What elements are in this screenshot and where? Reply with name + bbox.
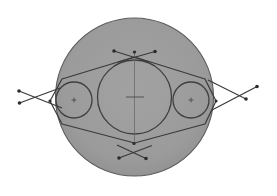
node-point [112, 49, 116, 53]
node-point [132, 142, 135, 145]
node-point [255, 85, 259, 89]
node-point [17, 89, 21, 93]
drawing-svg [0, 0, 277, 196]
node-point [117, 156, 121, 160]
node-point [144, 157, 148, 161]
node-point [18, 101, 22, 105]
node-point [153, 50, 157, 54]
drawing-canvas [0, 0, 277, 196]
node-point [48, 99, 51, 102]
node-point [133, 50, 136, 53]
node-point [244, 97, 248, 101]
node-point [214, 99, 217, 102]
